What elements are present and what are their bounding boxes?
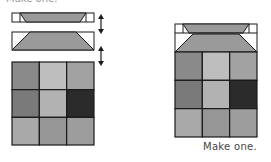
grid-cell — [12, 117, 39, 145]
instruction-caption: Make one. — [203, 141, 257, 152]
assembled-strips — [175, 24, 257, 52]
exploded-block-diagram — [0, 0, 120, 150]
assembled-block-svg — [160, 0, 271, 150]
grid-cell — [39, 62, 66, 90]
grid-cell — [230, 109, 257, 137]
up-down-arrow-icon — [98, 14, 104, 34]
up-down-arrow-icon — [98, 46, 104, 66]
grid-cell — [12, 90, 39, 118]
grid-cell — [39, 90, 66, 118]
exploded-block-svg — [0, 0, 120, 150]
grid-cell — [202, 52, 229, 80]
grid-cell — [67, 90, 94, 118]
grid-cell — [202, 109, 229, 137]
grid-cell — [67, 117, 94, 145]
grid-cell — [175, 80, 202, 108]
flying-geese-strip — [12, 32, 94, 50]
grid-cell — [230, 80, 257, 108]
assembled-nine-patch-grid — [175, 52, 257, 137]
grid-cell — [39, 117, 66, 145]
grid-cell — [202, 80, 229, 108]
grid-cell — [230, 52, 257, 80]
grid-cell — [67, 62, 94, 90]
grid-cell — [175, 52, 202, 80]
assembled-block-diagram — [160, 0, 271, 150]
nine-patch-grid — [12, 62, 94, 145]
thin-strip — [12, 13, 94, 22]
grid-cell — [12, 62, 39, 90]
grid-cell — [175, 109, 202, 137]
